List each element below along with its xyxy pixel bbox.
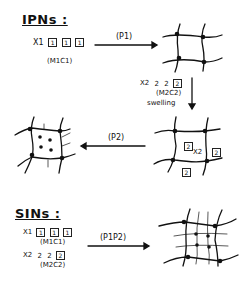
monomer-label: 2 — [164, 80, 168, 88]
monomer-box: 2 — [182, 168, 191, 177]
monomer-box: 2 — [173, 79, 182, 88]
multiplier-label: X1 — [33, 38, 44, 47]
monomer-box: 1 — [75, 38, 84, 47]
network-4-sin — [159, 209, 238, 266]
monomer-box: 2 — [212, 148, 221, 157]
sins-component2-monomers: X2 2 2 2 — [23, 251, 65, 260]
monomer-label: 2 — [37, 252, 41, 260]
ipns-step1-monomers: X1 1 1 1 — [33, 38, 84, 47]
multiplier-label: X1 — [23, 228, 32, 236]
process-p1-label: (P1) — [116, 32, 132, 41]
monomer-label: 2 — [154, 80, 158, 88]
monomer-box: 1 — [50, 228, 59, 237]
ipns-step2-composition: (M2C2) — [156, 89, 181, 97]
sins-component2-composition: (M2C2) — [40, 261, 65, 269]
sins-component1-monomers: X1 1 1 1 — [23, 228, 72, 237]
monomer-box: 1 — [36, 228, 45, 237]
arrow-swelling — [189, 78, 195, 109]
network-1 — [163, 24, 222, 72]
ipns-step2-monomers: X2 2 2 2 — [140, 79, 182, 88]
process-p1p2-label: (P1P2) — [100, 233, 126, 242]
ipns-title: IPNs : — [22, 12, 68, 27]
swelling-label: swelling — [147, 99, 175, 107]
network-multiplier-label: X2 — [193, 148, 202, 156]
process-p2-label: (P2) — [108, 133, 124, 142]
monomer-box: 1 — [62, 38, 71, 47]
multiplier-label: X2 — [140, 79, 149, 87]
network-3-ipn — [15, 117, 75, 173]
monomer-box: 1 — [63, 228, 72, 237]
monomer-label: 2 — [47, 252, 51, 260]
monomer-box: 1 — [48, 38, 57, 47]
arrow-p2 — [81, 143, 145, 149]
multiplier-label: X2 — [23, 251, 32, 259]
ipns-step1-composition: (M1C1) — [47, 57, 72, 65]
sins-title: SINs : — [15, 206, 61, 221]
monomer-box: 2 — [184, 142, 193, 151]
sins-component1-composition: (M1C1) — [40, 238, 65, 246]
arrow-p1 — [95, 42, 157, 48]
arrow-p1p2 — [88, 243, 149, 249]
monomer-box: 2 — [56, 251, 65, 260]
